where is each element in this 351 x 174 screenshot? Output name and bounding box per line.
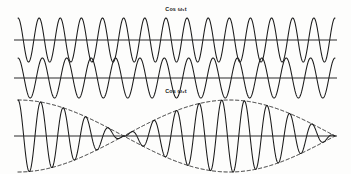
- wave1-group: [14, 18, 337, 62]
- wave2-label: Cos ω₂t: [165, 89, 186, 94]
- beats-figure: Cos ω₁t Cos ω₂t: [0, 0, 351, 174]
- wave1-label: Cos ω₁t: [165, 7, 186, 12]
- waveform-canvas: [0, 0, 351, 174]
- sum-group: [14, 100, 337, 172]
